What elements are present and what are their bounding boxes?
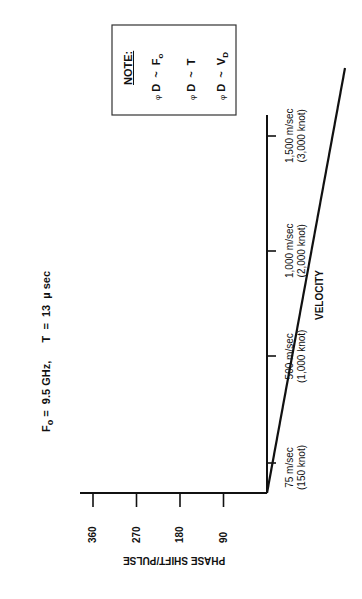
phase-tick-label: 90 xyxy=(218,532,229,543)
y-axis-title: PHASE SHIFT/PULSE xyxy=(123,555,225,566)
note-line: φ D ~ T xyxy=(185,58,197,100)
note-line: φ D ~ VD xyxy=(215,52,230,100)
velocity-tick-label: 1,500 m/sec(3,000 knot) xyxy=(284,109,308,163)
note-line: φ D ~ Fo xyxy=(150,54,165,100)
phase-tick-label: 270 xyxy=(131,526,142,543)
velocity-tick-label: 1,000 m/sec(2,000 knot) xyxy=(284,224,308,278)
x-axis-title: VELOCITY xyxy=(314,270,325,320)
velocity-tick-label: 75 m/sec(150 knot) xyxy=(284,445,308,490)
note-title: NOTE: xyxy=(122,51,134,85)
velocity-ticks xyxy=(267,136,276,463)
chart-title: Fo = 9.5 GHz, T = 13 µ sec xyxy=(40,271,55,432)
phase-tick-label: 360 xyxy=(87,526,98,543)
phase-tick-label: 180 xyxy=(174,526,185,543)
velocity-tick-label: 500 m/sec(1,000 knot) xyxy=(284,330,308,383)
phase-ticks xyxy=(93,493,224,507)
